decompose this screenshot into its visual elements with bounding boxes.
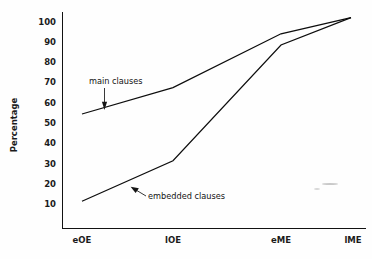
annotation-main-clauses: main clauses [89, 76, 143, 86]
y-tick-label-20: 20 [44, 179, 56, 189]
scan-artifact [314, 188, 320, 190]
y-axis-title: Percentage [9, 97, 19, 152]
y-tick-label-40: 40 [44, 138, 56, 148]
annotation-embedded-clauses: embedded clauses [148, 191, 225, 201]
y-tick-label-50: 50 [44, 118, 56, 128]
y-tick-label-80: 80 [44, 57, 56, 67]
y-tick-label-70: 70 [44, 77, 56, 87]
y-tick-label-100: 100 [38, 17, 56, 27]
line-chart: 100 90 80 70 60 50 40 30 20 10 Percentag… [0, 0, 372, 259]
scan-artifact [322, 183, 338, 185]
y-tick-label-10: 10 [44, 199, 56, 209]
y-tick-label-30: 30 [44, 159, 56, 169]
x-tick-label-lme: lME [344, 235, 361, 245]
figure-container: 100 90 80 70 60 50 40 30 20 10 Percentag… [0, 0, 372, 259]
y-tick-label-90: 90 [44, 37, 56, 47]
y-tick-label-60: 60 [44, 98, 56, 108]
x-tick-label-loe: lOE [165, 235, 181, 245]
x-tick-label-eoe: eOE [73, 235, 92, 245]
x-tick-label-eme: eME [271, 235, 291, 245]
